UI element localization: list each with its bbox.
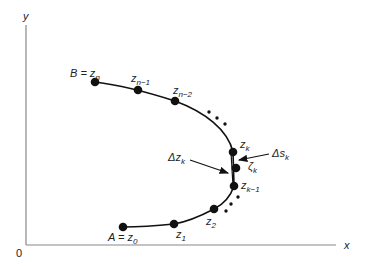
label-zk1: zk−1 — [240, 179, 260, 194]
label-A: A = z0 — [107, 231, 138, 246]
y-axis-label: y — [22, 10, 30, 22]
label-delta-z: Δzk — [167, 151, 186, 166]
point-zk — [229, 148, 238, 157]
contour-diagram: y x 0 B = zn zn−1 zn−2 zk ζk zk−1 z2 z1 … — [0, 0, 367, 266]
arrow-delta-s — [239, 154, 269, 160]
diagram-svg: y x 0 B = zn zn−1 zn−2 zk ζk zk−1 z2 z1 … — [0, 0, 367, 266]
ellipsis-upper — [207, 110, 226, 125]
point-A — [119, 223, 128, 232]
point-zeta — [232, 164, 241, 173]
ellipsis-lower — [224, 195, 239, 212]
origin-label: 0 — [16, 247, 22, 259]
label-zk: zk — [239, 138, 251, 153]
label-zn1: zn−1 — [130, 72, 150, 87]
label-B: B = zn — [70, 67, 100, 82]
point-z2 — [210, 205, 219, 214]
label-zeta: ζk — [248, 160, 258, 175]
label-z2: z2 — [205, 215, 217, 230]
arrow-delta-z — [190, 160, 228, 173]
x-axis-label: x — [343, 239, 350, 251]
point-z1 — [170, 220, 179, 229]
label-z1: z1 — [175, 228, 186, 243]
point-zk1 — [230, 182, 239, 191]
label-delta-s: Δsk — [271, 147, 290, 162]
